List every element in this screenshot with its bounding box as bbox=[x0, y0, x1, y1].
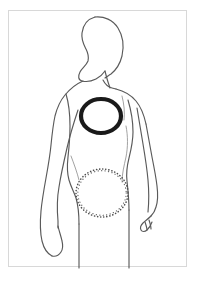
left-hand-outline bbox=[52, 226, 63, 256]
head-outline bbox=[79, 17, 105, 81]
left-arm-outer-outline bbox=[40, 81, 83, 256]
body-outline-group bbox=[40, 17, 157, 268]
abdomen-marker-dotted-ring-inner bbox=[78, 171, 126, 216]
chest-marker-solid-ring[interactable] bbox=[81, 99, 121, 133]
right-hand-finger-1 bbox=[145, 222, 147, 230]
right-arm-inner-outline bbox=[137, 108, 149, 212]
abdomen-marker-dotted-ring[interactable] bbox=[76, 169, 128, 217]
right-arm-outer-outline bbox=[146, 124, 158, 216]
armpit-contour-line bbox=[71, 156, 79, 180]
body-diagram-canvas: Body pain location diagram Solid circle … bbox=[0, 0, 197, 284]
neck-front-outline bbox=[103, 80, 116, 89]
body-figure bbox=[0, 0, 197, 284]
head-right-outline bbox=[95, 17, 123, 78]
